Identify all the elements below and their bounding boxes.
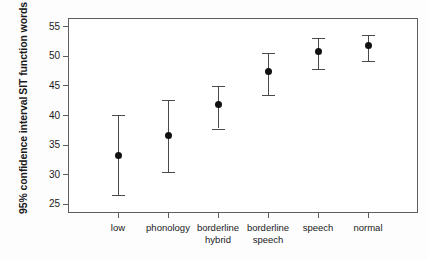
x-axis-tick-mark xyxy=(318,213,319,218)
y-axis-tick-mark xyxy=(63,145,68,146)
errorbar-cap-lower xyxy=(112,195,125,196)
data-point-marker xyxy=(315,48,322,55)
data-point-marker xyxy=(115,152,122,159)
y-axis-tick-label: 45 xyxy=(49,79,60,92)
x-axis-tick-mark xyxy=(218,213,219,218)
errorbar-cap-lower xyxy=(262,95,275,96)
errorbar-cap-lower xyxy=(212,129,225,130)
y-axis-tick-label: 40 xyxy=(49,109,60,122)
errorbar-cap-lower xyxy=(312,69,325,70)
errorbar-cap-upper xyxy=(312,38,325,39)
y-axis-tick-mark xyxy=(63,174,68,175)
x-axis-tick-label: normal xyxy=(324,222,412,234)
confidence-interval-chart: 95% confidence interval SIT function wor… xyxy=(0,0,428,259)
errorbar-cap-upper xyxy=(212,86,225,87)
errorbar-cap-lower xyxy=(362,61,375,62)
y-axis-title: 95% confidence interval SIT function wor… xyxy=(0,0,46,215)
y-axis-tick-mark xyxy=(63,204,68,205)
x-axis-tick-mark xyxy=(118,213,119,218)
errorbar-cap-upper xyxy=(112,115,125,116)
y-axis-title-line-2: SIT function words xyxy=(17,1,29,94)
errorbar-cap-lower xyxy=(162,172,175,173)
y-axis-tick-label: 25 xyxy=(49,197,60,210)
errorbar-cap-upper xyxy=(362,35,375,36)
data-point-marker xyxy=(215,101,222,108)
x-axis-tick-mark xyxy=(168,213,169,218)
y-axis-title-line-1: 95% confidence interval xyxy=(17,96,29,213)
x-axis-tick-mark xyxy=(268,213,269,218)
errorbar-cap-upper xyxy=(162,100,175,101)
y-axis-tick-label: 30 xyxy=(49,168,60,181)
y-axis-tick-label: 35 xyxy=(49,138,60,151)
x-axis-tick-label-line: speech xyxy=(224,234,312,246)
data-point-marker xyxy=(365,42,372,49)
y-axis-tick-mark xyxy=(63,85,68,86)
data-point-marker xyxy=(265,68,272,75)
y-axis-tick-mark xyxy=(63,26,68,27)
x-axis-tick-label-line: normal xyxy=(324,222,412,234)
x-axis-tick-mark xyxy=(368,213,369,218)
y-axis-tick-label: 50 xyxy=(49,49,60,62)
y-axis-tick-mark xyxy=(63,115,68,116)
errorbar-cap-upper xyxy=(262,53,275,54)
y-axis-tick-label: 55 xyxy=(49,20,60,33)
y-axis-tick-mark xyxy=(63,56,68,57)
data-point-marker xyxy=(165,132,172,139)
